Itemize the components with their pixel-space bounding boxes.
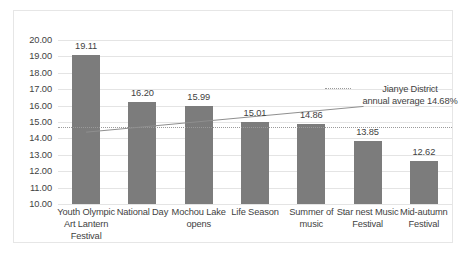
category-label: Summer of music [279, 206, 343, 230]
y-axis-tick-label: 20.00 [29, 35, 52, 45]
y-axis-tick-label: 18.00 [29, 68, 52, 78]
reference-line-legend: Jianye District annual average 14.68% [354, 83, 465, 108]
bar-value-label: 13.85 [356, 127, 379, 137]
category-label: National Day [110, 206, 174, 218]
gridline [58, 56, 452, 57]
bar [354, 141, 382, 204]
dotted-line-swatch [325, 88, 351, 89]
category-label: Life Season [223, 206, 287, 218]
bar-value-label: 16.20 [131, 88, 154, 98]
bar-value-label: 15.99 [187, 92, 210, 102]
plot-area: 20.0019.0018.0017.0016.0015.0014.0013.00… [58, 40, 452, 204]
category-label: Mochou Lake opens [167, 206, 231, 230]
y-axis-tick-label: 14.00 [29, 133, 52, 143]
bar [241, 122, 269, 204]
y-axis-tick-label: 16.00 [29, 101, 52, 111]
category-label: Youth Olympic Art Lantern Festival [54, 206, 118, 243]
y-axis-tick-label: 15.00 [29, 117, 52, 127]
legend-label-line2: annual average [362, 96, 424, 106]
gridline [58, 40, 452, 41]
y-axis-tick-label: 12.00 [29, 166, 52, 176]
bar-value-label: 14.86 [300, 110, 323, 120]
y-axis-tick-label: 11.00 [30, 183, 52, 193]
gridline [58, 204, 452, 205]
y-axis-tick-label: 17.00 [29, 84, 52, 94]
gridline [58, 73, 452, 74]
bar [410, 161, 438, 204]
bar-value-label: 19.11 [75, 41, 97, 51]
bar [128, 102, 156, 204]
y-axis-tick-label: 13.00 [29, 150, 52, 160]
legend-label-line1: Jianye District [354, 83, 465, 95]
category-label: Star nest Music Festival [336, 206, 400, 230]
bar [185, 106, 213, 204]
bar-value-label: 12.62 [412, 147, 435, 157]
y-axis-tick-label: 10.00 [29, 199, 52, 209]
category-label: Mid-autumn Festival [392, 206, 456, 230]
legend-label-line3: 14.68% [427, 96, 458, 106]
y-axis-tick-label: 19.00 [29, 51, 52, 61]
chart-frame: 20.0019.0018.0017.0016.0015.0014.0013.00… [13, 10, 453, 243]
bar [72, 55, 100, 204]
bar [297, 124, 325, 204]
average-reference-line [58, 127, 452, 128]
bar-value-label: 15.01 [244, 108, 267, 118]
